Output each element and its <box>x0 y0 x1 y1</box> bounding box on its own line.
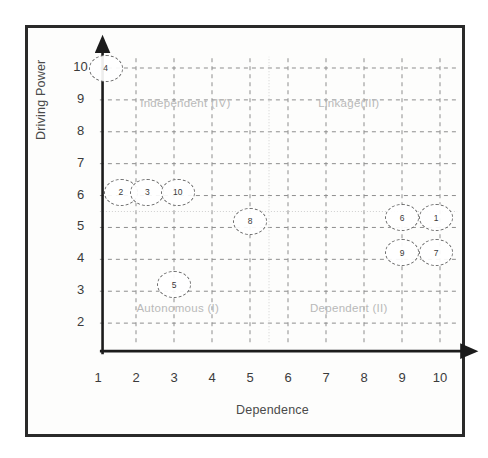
data-point-3: 3 <box>130 179 164 206</box>
y-axis-title: Driving Power <box>34 20 48 140</box>
y-tick-label: 3 <box>70 282 92 297</box>
x-tick-label: 2 <box>125 370 147 385</box>
x-tick-label: 10 <box>429 370 451 385</box>
plot-area: Driving Power Dependence 12345678910 234… <box>0 0 488 458</box>
quadrant-label-dependent: Dependent (II) <box>310 302 388 314</box>
x-tick-label: 1 <box>87 370 109 385</box>
y-tick-label: 5 <box>70 218 92 233</box>
y-tick-label: 9 <box>70 91 92 106</box>
x-tick-label: 8 <box>353 370 375 385</box>
x-tick-label: 4 <box>201 370 223 385</box>
x-tick-label: 3 <box>163 370 185 385</box>
y-tick-label: 7 <box>70 155 92 170</box>
quadrant-label-autonomous: Autonomous (I) <box>136 302 219 314</box>
data-point-8: 8 <box>233 208 267 235</box>
x-axis-title: Dependence <box>236 403 309 417</box>
y-tick-label: 2 <box>70 314 92 329</box>
data-point-4: 4 <box>89 55 123 82</box>
quadrant-label-linkage: Linkage(III) <box>318 97 379 109</box>
x-tick-label: 9 <box>391 370 413 385</box>
y-tick-label: 4 <box>70 250 92 265</box>
data-point-10: 10 <box>161 179 195 206</box>
y-tick-label: 6 <box>70 187 92 202</box>
x-tick-label: 6 <box>277 370 299 385</box>
x-tick-label: 7 <box>315 370 337 385</box>
quadrant-label-independent: Independent (IV) <box>140 97 230 109</box>
x-tick-label: 5 <box>239 370 261 385</box>
y-tick-label: 8 <box>70 123 92 138</box>
